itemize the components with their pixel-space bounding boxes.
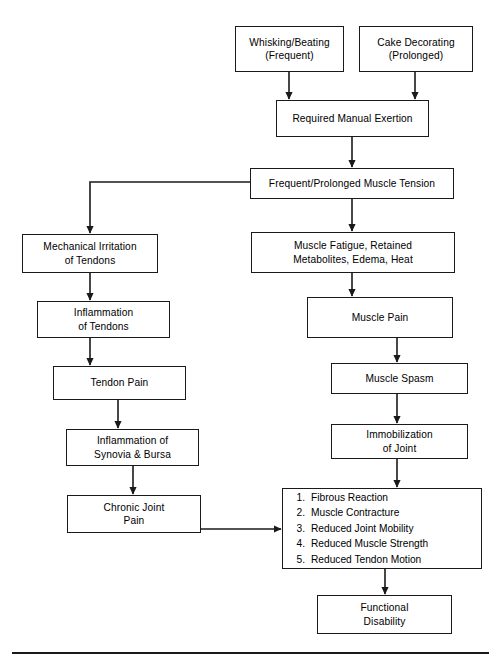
- node-required-manual-exertion-label: Required Manual Exertion: [288, 112, 416, 125]
- list-item: Muscle Contracture: [311, 505, 428, 521]
- node-functional-disability: Functional Disability: [317, 595, 452, 634]
- node-muscle-spasm-label: Muscle Spasm: [361, 372, 437, 385]
- node-cake-decorating: Cake Decorating (Prolonged): [359, 26, 473, 72]
- node-cake-decorating-label: Cake Decorating (Prolonged): [373, 36, 458, 63]
- node-whisking-beating: Whisking/Beating (Frequent): [235, 26, 344, 72]
- edge-tension-to-mechanical: [90, 182, 250, 233]
- list-item: Reduced Muscle Strength: [311, 536, 428, 552]
- node-frequent-prolonged-muscle-tension-label: Frequent/Prolonged Muscle Tension: [265, 177, 439, 190]
- node-muscle-fatigue: Muscle Fatigue, Retained Metabolites, Ed…: [251, 232, 455, 273]
- list-item: Reduced Tendon Motion: [311, 552, 428, 568]
- node-muscle-spasm: Muscle Spasm: [331, 363, 468, 394]
- node-mechanical-irritation-of-tendons: Mechanical Irritation of Tendons: [22, 234, 158, 273]
- node-muscle-pain-label: Muscle Pain: [348, 311, 413, 324]
- node-required-manual-exertion: Required Manual Exertion: [276, 100, 429, 137]
- node-frequent-prolonged-muscle-tension: Frequent/Prolonged Muscle Tension: [250, 168, 454, 199]
- node-chronic-joint-pain-label: Chronic Joint Pain: [100, 501, 169, 528]
- list-item: Reduced Joint Mobility: [311, 521, 428, 537]
- node-muscle-fatigue-label: Muscle Fatigue, Retained Metabolites, Ed…: [289, 239, 417, 266]
- node-muscle-pain: Muscle Pain: [307, 297, 453, 338]
- node-inflammation-of-tendons: Inflammation of Tendons: [37, 301, 170, 338]
- outcomes-list: Fibrous Reaction Muscle Contracture Redu…: [283, 490, 428, 568]
- list-item: Fibrous Reaction: [311, 490, 428, 506]
- node-chronic-joint-pain: Chronic Joint Pain: [67, 495, 201, 533]
- node-inflammation-of-tendons-label: Inflammation of Tendons: [70, 306, 138, 333]
- node-inflammation-of-synovia-bursa-label: Inflammation of Synovia & Bursa: [90, 434, 175, 461]
- node-outcomes-list: Fibrous Reaction Muscle Contracture Redu…: [282, 488, 482, 569]
- node-tendon-pain: Tendon Pain: [53, 366, 186, 400]
- node-mechanical-irritation-of-tendons-label: Mechanical Irritation of Tendons: [39, 240, 140, 267]
- bottom-divider: [12, 652, 489, 654]
- node-inflammation-of-synovia-bursa: Inflammation of Synovia & Bursa: [66, 429, 199, 466]
- node-tendon-pain-label: Tendon Pain: [87, 376, 153, 389]
- node-whisking-beating-label: Whisking/Beating (Frequent): [245, 36, 333, 63]
- node-immobilization-of-joint-label: Immobilization of Joint: [362, 428, 437, 455]
- node-functional-disability-label: Functional Disability: [356, 601, 412, 628]
- flowchart-diagram: Whisking/Beating (Frequent) Cake Decorat…: [0, 0, 501, 665]
- node-immobilization-of-joint: Immobilization of Joint: [331, 424, 468, 459]
